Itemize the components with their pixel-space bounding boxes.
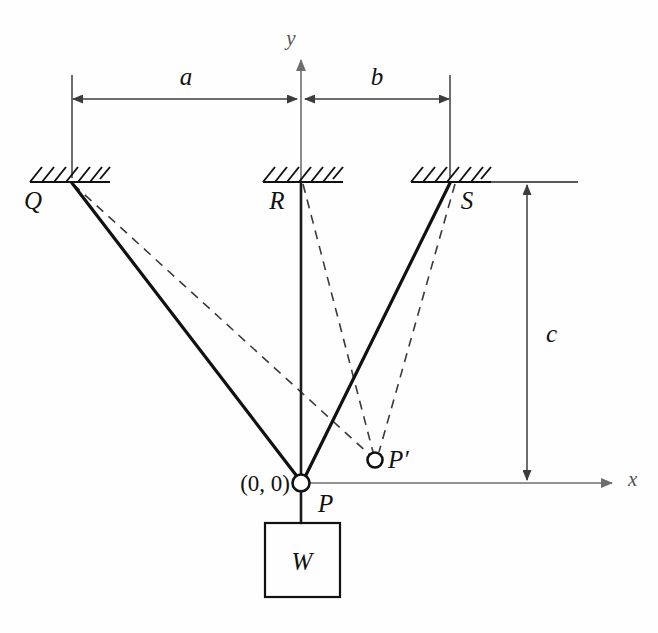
support-r: R bbox=[263, 167, 343, 214]
origin-coordinate-label: (0, 0) bbox=[240, 471, 290, 496]
dimension-c-label: c bbox=[546, 320, 557, 347]
dimension-b: b bbox=[305, 63, 449, 99]
dimension-a: a bbox=[73, 63, 297, 99]
support-s-hatching bbox=[411, 167, 491, 182]
x-axis-label: x bbox=[627, 467, 638, 491]
support-s: S bbox=[411, 167, 491, 214]
support-q-label: Q bbox=[24, 187, 42, 214]
suspension-diagram: y x a b c bbox=[0, 0, 658, 633]
pin-joint-p bbox=[293, 475, 310, 492]
dimension-b-label: b bbox=[371, 63, 384, 90]
dimension-a-label: a bbox=[180, 63, 193, 90]
weight-label: W bbox=[292, 548, 315, 575]
y-axis-label: y bbox=[284, 26, 296, 50]
dimension-extension-lines bbox=[72, 75, 450, 178]
support-r-label: R bbox=[268, 187, 284, 214]
axis-group: y x bbox=[284, 26, 638, 491]
member-q-p bbox=[72, 183, 299, 479]
support-q-hatching bbox=[30, 167, 110, 182]
dashed-members-group bbox=[73, 184, 455, 455]
support-s-label: S bbox=[461, 187, 474, 214]
dimension-c: c bbox=[477, 182, 578, 480]
node-p-label: P bbox=[317, 490, 333, 517]
dashed-member-q-pprime bbox=[73, 184, 370, 455]
node-p: (0, 0) P bbox=[240, 471, 333, 517]
solid-members-group bbox=[72, 183, 450, 479]
support-r-hatching bbox=[263, 167, 343, 182]
member-s-p bbox=[304, 183, 450, 479]
node-pprime: P′ bbox=[368, 446, 410, 473]
figure-container: y x a b c bbox=[0, 0, 658, 633]
node-pprime-label: P′ bbox=[387, 446, 409, 473]
dashed-member-s-pprime bbox=[379, 184, 455, 452]
pin-joint-pprime bbox=[368, 453, 383, 468]
